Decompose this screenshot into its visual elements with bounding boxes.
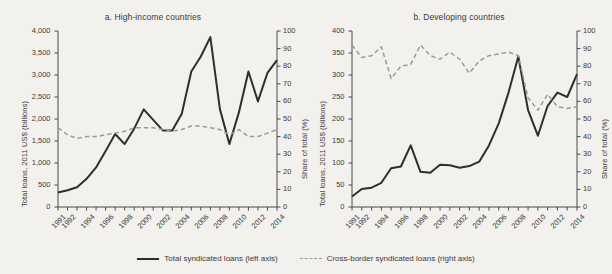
panel-a-series-cross-border bbox=[58, 126, 277, 138]
panel-b-series-cross-border bbox=[352, 45, 577, 110]
panel-b-y2tick: 10 bbox=[583, 185, 607, 193]
panel-b-y2tick: 90 bbox=[583, 45, 607, 53]
panel-b-y2tick: 30 bbox=[583, 150, 607, 158]
solid-line-icon bbox=[137, 258, 159, 260]
panel-b-ytick: 350 bbox=[289, 49, 345, 57]
panel-b-y2tick: 100 bbox=[583, 27, 607, 35]
panel-a-plot-area bbox=[58, 31, 277, 207]
chart-legend: Total syndicated loans (left axis) Cross… bbox=[0, 243, 612, 274]
panel-b-y2tick: 0 bbox=[583, 203, 607, 211]
figure-root: a. High-income countries Total loans, 20… bbox=[0, 0, 612, 274]
legend-item-cross-border: Cross-border syndicated loans (right axi… bbox=[300, 254, 475, 263]
panel-a-ytick: 0 bbox=[0, 203, 51, 211]
panel-b-ytick: 0 bbox=[289, 203, 345, 211]
panel-b-y2tick: 50 bbox=[583, 115, 607, 123]
panel-a-ytick: 1,000 bbox=[0, 159, 51, 167]
panel-a-ytick: 4,000 bbox=[0, 27, 51, 35]
legend-label-total: Total syndicated loans (left axis) bbox=[164, 254, 277, 263]
legend-label-cross-border: Cross-border syndicated loans (right axi… bbox=[327, 254, 475, 263]
panel-a-series-total bbox=[58, 37, 277, 192]
panel-b-ytick: 250 bbox=[289, 93, 345, 101]
panel-a-ytick: 2,000 bbox=[0, 115, 51, 123]
panel-a-ytick: 2,500 bbox=[0, 93, 51, 101]
dashed-line-icon bbox=[300, 258, 322, 259]
panel-b-ytick: 300 bbox=[289, 71, 345, 79]
panel-b-ytick: 200 bbox=[289, 115, 345, 123]
panel-a-y2tick: 20 bbox=[283, 168, 307, 176]
chart-panel-b: b. Developing countries Total loans, 201… bbox=[306, 0, 612, 240]
panel-b-plot-area bbox=[352, 31, 577, 207]
panel-b-y2tick: 60 bbox=[583, 97, 607, 105]
panel-a-title: a. High-income countries bbox=[0, 12, 306, 22]
panel-a-ytick: 3,500 bbox=[0, 49, 51, 57]
panel-a-y2tick: 70 bbox=[283, 80, 307, 88]
chart-panel-a: a. High-income countries Total loans, 20… bbox=[0, 0, 306, 240]
panel-b-title: b. Developing countries bbox=[306, 12, 612, 22]
panel-b-ytick: 400 bbox=[289, 27, 345, 35]
panel-b-ytick: 150 bbox=[289, 137, 345, 145]
panel-b-y2tick: 80 bbox=[583, 62, 607, 70]
panel-b-ytick: 100 bbox=[289, 159, 345, 167]
panel-b-series-total bbox=[352, 57, 577, 197]
panel-b-y2tick: 70 bbox=[583, 80, 607, 88]
panel-a-ytick: 3,000 bbox=[0, 71, 51, 79]
panel-b-y2tick: 40 bbox=[583, 133, 607, 141]
panel-a-ytick: 1,500 bbox=[0, 137, 51, 145]
legend-item-total: Total syndicated loans (left axis) bbox=[137, 254, 277, 263]
panel-b-ytick: 50 bbox=[289, 181, 345, 189]
panel-b-y2tick: 20 bbox=[583, 168, 607, 176]
panel-a-ytick: 500 bbox=[0, 181, 51, 189]
panel-a-y2tick: 30 bbox=[283, 150, 307, 158]
panel-a-y2tick: 80 bbox=[283, 62, 307, 70]
